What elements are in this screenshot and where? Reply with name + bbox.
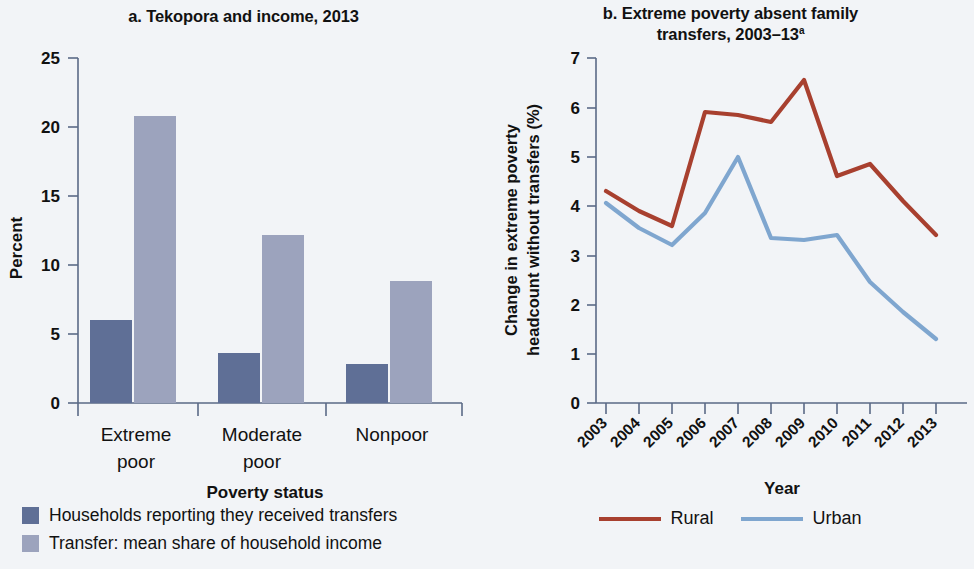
year-label: 2009 <box>772 414 809 451</box>
y-tick-label: 2 <box>571 296 580 315</box>
legend-label: Rural <box>670 508 713 529</box>
year-label: 2007 <box>706 414 742 450</box>
bar-moderate-poor-households <box>218 353 260 403</box>
y-tick-labels-a: 0 5 10 15 20 25 <box>41 49 60 413</box>
year-label: 2013 <box>904 414 941 451</box>
legend-line-icon <box>599 517 661 521</box>
y-tick-label: 10 <box>41 256 60 275</box>
year-label: 2005 <box>640 414 677 451</box>
y-tick-label: 20 <box>41 118 60 137</box>
year-label: 2012 <box>871 414 907 450</box>
y-tick-label: 6 <box>571 99 580 118</box>
y-tick-labels-b: 0 1 2 3 4 5 6 7 <box>571 49 581 413</box>
panel-a: a. Tekopora and income, 2013 0 5 10 15 2… <box>0 0 487 569</box>
category-label: Extreme <box>101 424 172 445</box>
category-label: poor <box>243 451 282 472</box>
line-series-rural <box>606 80 936 235</box>
year-label: 2003 <box>574 414 611 451</box>
x-axis-title-a: Poverty status <box>206 483 323 502</box>
y-axis-title-a: Percent <box>7 216 26 279</box>
year-label: 2006 <box>673 414 710 451</box>
y-axis-title-b-line1: Change in extreme poverty <box>502 123 520 336</box>
year-label: 2011 <box>838 414 874 450</box>
legend-swatch-icon <box>22 535 39 552</box>
y-tick-label: 1 <box>571 345 580 364</box>
year-label: 2004 <box>607 414 644 451</box>
line-chart-svg: 0 1 2 3 4 5 6 7 Change in extreme povert… <box>487 0 974 500</box>
legend-item-rural: Rural <box>599 508 713 529</box>
legend-label: Transfer: mean share of household income <box>49 533 382 554</box>
x-ticks-a <box>78 403 462 416</box>
panel-b: b. Extreme poverty absent family transfe… <box>487 0 974 569</box>
y-tick-label: 7 <box>571 49 580 68</box>
legend-label: Urban <box>812 508 861 529</box>
legend-panel-a: Households reporting they received trans… <box>22 505 397 561</box>
x-ticks-b <box>606 403 936 414</box>
category-label: Nonpoor <box>356 424 430 445</box>
y-tick-label: 5 <box>571 148 580 167</box>
y-tick-label: 15 <box>41 187 60 206</box>
y-tick-label: 25 <box>41 49 60 68</box>
year-label: 2008 <box>739 414 776 451</box>
y-tick-label: 4 <box>571 197 581 216</box>
year-label: 2010 <box>805 414 841 450</box>
y-tick-label: 0 <box>51 394 60 413</box>
legend-swatch-icon <box>22 507 39 524</box>
bar-extreme-poor-transfer <box>134 116 176 403</box>
bar-extreme-poor-households <box>90 320 132 403</box>
y-tick-label: 0 <box>571 394 580 413</box>
legend-item-urban: Urban <box>741 508 861 529</box>
legend-item-transfer: Transfer: mean share of household income <box>22 533 397 554</box>
y-tick-label: 3 <box>571 247 580 266</box>
category-label: Moderate <box>222 424 302 445</box>
x-axis-title-b: Year <box>764 479 800 498</box>
x-category-labels-a: Extreme poor Moderate poor Nonpoor <box>101 424 429 472</box>
bar-moderate-poor-transfer <box>262 235 304 403</box>
figure-container: a. Tekopora and income, 2013 0 5 10 15 2… <box>0 0 974 569</box>
y-ticks-a <box>68 58 78 403</box>
legend-line-icon <box>741 517 803 521</box>
y-ticks-b <box>587 58 596 403</box>
legend-panel-b: Rural Urban <box>487 508 974 529</box>
legend-item-households: Households reporting they received trans… <box>22 505 397 526</box>
bar-nonpoor-transfer <box>390 281 432 403</box>
x-year-labels: 2003 2004 2005 2006 2007 2008 2009 2010 … <box>574 414 941 451</box>
y-tick-label: 5 <box>51 325 60 344</box>
y-axis-title-b-line2: headcount without transfers (%) <box>524 104 542 356</box>
bar-chart-svg: 0 5 10 15 20 25 Percent <box>0 0 487 500</box>
bar-nonpoor-households <box>346 364 388 403</box>
legend-label: Households reporting they received trans… <box>49 505 397 526</box>
category-label: poor <box>117 451 156 472</box>
